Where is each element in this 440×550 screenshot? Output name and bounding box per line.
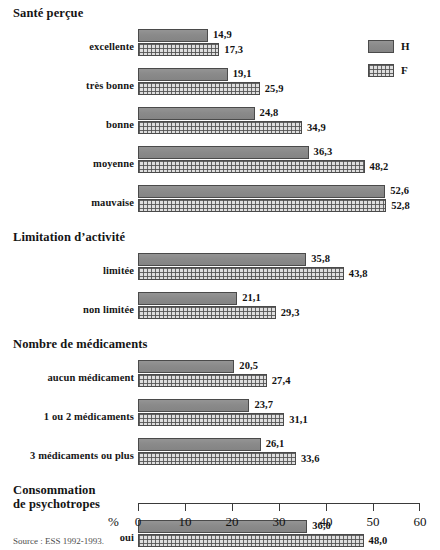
crosshatch-swatch bbox=[368, 64, 394, 77]
bar-series-h bbox=[138, 107, 255, 120]
bar-value-label: 48,2 bbox=[370, 160, 389, 173]
bar-series-h bbox=[138, 253, 306, 266]
legend-item: F bbox=[368, 64, 434, 83]
section-header: Consommation de psychotropes bbox=[13, 483, 100, 511]
bar-series-f bbox=[138, 534, 364, 547]
x-axis-tick-label: 0 bbox=[123, 514, 153, 529]
bar-value-label: 25,9 bbox=[265, 82, 284, 95]
bar-series-h bbox=[138, 29, 208, 42]
bar-series-h bbox=[138, 292, 237, 305]
x-axis-tick-label: 10 bbox=[170, 514, 200, 529]
category-label: moyenne bbox=[4, 158, 134, 170]
bar-value-label: 35,8 bbox=[311, 252, 330, 265]
category-label: très bonne bbox=[4, 80, 134, 92]
bar-series-f bbox=[138, 121, 302, 134]
category-label: mauvaise bbox=[4, 197, 134, 209]
bar-value-label: 34,9 bbox=[307, 121, 326, 134]
x-axis-tick bbox=[419, 503, 420, 511]
x-axis-tick bbox=[326, 503, 327, 511]
bar-value-label: 17,3 bbox=[224, 43, 243, 56]
bar-series-h bbox=[138, 399, 249, 412]
bar-value-label: 14,9 bbox=[213, 28, 232, 41]
x-axis-tick bbox=[373, 503, 374, 511]
bar-value-label: 29,3 bbox=[281, 306, 300, 319]
section-header: Santé perçue bbox=[13, 6, 83, 20]
bar-value-label: 52,6 bbox=[390, 184, 409, 197]
category-label: aucun médicament bbox=[4, 372, 134, 384]
x-axis-tick-label: 20 bbox=[217, 514, 247, 529]
bar-series-f bbox=[138, 160, 365, 173]
bar-value-label: 33,6 bbox=[301, 452, 320, 465]
bar-value-label: 20,5 bbox=[239, 359, 258, 372]
category-label: excellente bbox=[4, 41, 134, 53]
legend-label: F bbox=[401, 63, 408, 78]
x-axis-tick bbox=[185, 503, 186, 511]
x-axis-unit-label: % bbox=[108, 514, 119, 529]
bar-value-label: 19,1 bbox=[233, 67, 252, 80]
x-axis-tick-label: 30 bbox=[264, 514, 294, 529]
bar-value-label: 48,0 bbox=[369, 534, 388, 547]
bar-value-label: 24,8 bbox=[260, 106, 279, 119]
category-label: 1 ou 2 médicaments bbox=[4, 411, 134, 423]
bar-value-label: 52,8 bbox=[391, 199, 410, 212]
category-label: limitée bbox=[4, 265, 134, 277]
bar-chart: Santé perçueexcellente14,917,3très bonne… bbox=[0, 0, 440, 550]
category-label: bonne bbox=[4, 119, 134, 131]
x-axis-tick-label: 50 bbox=[358, 514, 388, 529]
bar-series-h bbox=[138, 185, 385, 198]
x-axis-tick bbox=[138, 503, 139, 511]
bar-value-label: 23,7 bbox=[254, 398, 273, 411]
bar-series-f bbox=[138, 82, 260, 95]
solid-gray-swatch bbox=[368, 40, 394, 53]
bar-series-h bbox=[138, 146, 309, 159]
x-axis-tick-label: 40 bbox=[311, 514, 341, 529]
bar-value-label: 27,4 bbox=[272, 374, 291, 387]
bar-series-f bbox=[138, 43, 219, 56]
x-axis-tick bbox=[279, 503, 280, 511]
category-label: 3 médicaments ou plus bbox=[4, 450, 134, 462]
bar-series-f bbox=[138, 199, 386, 212]
legend-item: H bbox=[368, 40, 434, 59]
bar-series-f bbox=[138, 267, 344, 280]
source-note: Source : ESS 1992-1993. bbox=[13, 536, 104, 547]
bar-series-h bbox=[138, 68, 228, 81]
bar-series-h bbox=[138, 360, 234, 373]
x-axis-tick-label: 60 bbox=[405, 514, 435, 529]
bar-series-h bbox=[138, 438, 261, 451]
bar-series-f bbox=[138, 413, 284, 426]
bar-series-f bbox=[138, 374, 267, 387]
x-axis bbox=[138, 503, 420, 513]
section-header: Nombre de médicaments bbox=[13, 337, 148, 351]
chart-legend: HF bbox=[368, 40, 434, 88]
category-label: non limitée bbox=[4, 304, 134, 316]
bar-series-f bbox=[138, 452, 296, 465]
bar-value-label: 26,1 bbox=[266, 437, 285, 450]
x-axis-tick bbox=[232, 503, 233, 511]
bar-value-label: 21,1 bbox=[242, 291, 261, 304]
bar-value-label: 36,3 bbox=[314, 145, 333, 158]
legend-label: H bbox=[401, 39, 410, 54]
section-header: Limitation d’activité bbox=[13, 230, 125, 244]
bar-value-label: 43,8 bbox=[349, 267, 368, 280]
bar-value-label: 31,1 bbox=[289, 413, 308, 426]
bar-series-f bbox=[138, 306, 276, 319]
